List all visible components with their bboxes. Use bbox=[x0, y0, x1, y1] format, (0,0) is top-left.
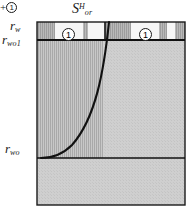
label-r-wo1: rwo1 bbox=[2, 31, 21, 48]
label-r-wo1-sub: wo1 bbox=[7, 39, 21, 48]
lower-reservoir-block bbox=[37, 158, 185, 205]
figure-container: rw rwo1 rwo SHor +1 1 1 bbox=[0, 0, 191, 211]
label-sor-base: S bbox=[72, 1, 79, 16]
label-sor-sub: or bbox=[85, 8, 93, 17]
circled-one-left-icon: 1 bbox=[62, 28, 75, 41]
hatched-invaded-zone bbox=[37, 40, 103, 158]
reservoir-cross-section-diagram bbox=[0, 0, 191, 211]
label-r-wo: rwo bbox=[5, 140, 20, 157]
label-r-wo-sub: wo bbox=[10, 148, 20, 157]
band-gap-center bbox=[88, 22, 105, 40]
label-sor-residual-oil-saturation: SHor bbox=[72, 2, 92, 17]
band-marker-left: 1 bbox=[62, 24, 75, 42]
band-gap-far-right bbox=[167, 22, 175, 40]
circled-one-right-icon: 1 bbox=[139, 28, 152, 41]
band-marker-right: 1 bbox=[139, 24, 152, 42]
